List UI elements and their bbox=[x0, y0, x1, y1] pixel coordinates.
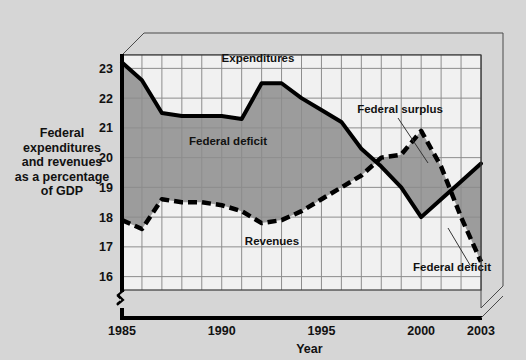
y-axis-tick-label: 17 bbox=[99, 240, 113, 254]
x-axis-tick-label: 2003 bbox=[467, 324, 495, 338]
y-axis-title-line: expenditures bbox=[23, 141, 101, 155]
annotation-revenues: Revenues bbox=[245, 235, 299, 247]
x-axis-tick-label: 2000 bbox=[407, 324, 435, 338]
y-axis-tick-label: 16 bbox=[99, 270, 113, 284]
y-axis-tick-label: 22 bbox=[99, 92, 113, 106]
y-axis-tick-label: 18 bbox=[99, 211, 113, 225]
y-axis-title-line: Federal bbox=[40, 126, 84, 140]
x-axis-tick-label: 1995 bbox=[308, 324, 336, 338]
y-axis-title-line: as a percentage bbox=[15, 170, 110, 184]
annotation-federal-deficit-right: Federal deficit bbox=[413, 261, 491, 273]
annotation-expenditures: Expenditures bbox=[222, 52, 295, 64]
chart-figure: 161718192021222319851990199520002003Year… bbox=[0, 0, 526, 360]
x-axis-tick-label: 1990 bbox=[208, 324, 236, 338]
annotation-federal-deficit-left: Federal deficit bbox=[189, 135, 267, 147]
annotation-federal-surplus: Federal surplus bbox=[357, 103, 443, 115]
x-axis-tick-label: 1985 bbox=[108, 324, 136, 338]
y-axis-tick-label: 21 bbox=[99, 121, 113, 135]
y-axis-tick-label: 23 bbox=[99, 62, 113, 76]
y-axis-title-line: and revenues bbox=[22, 155, 103, 169]
chart-canvas: 161718192021222319851990199520002003Year… bbox=[0, 0, 526, 360]
y-axis-title-line: of GDP bbox=[41, 184, 83, 198]
x-axis-title: Year bbox=[296, 342, 323, 356]
y-axis-title-block: Federalexpendituresand revenuesas a perc… bbox=[15, 126, 110, 198]
